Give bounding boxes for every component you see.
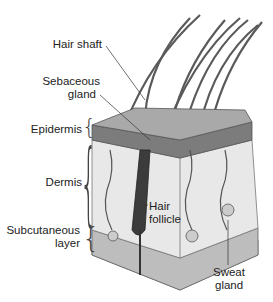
label-sweat-1: Sweat <box>213 266 245 279</box>
label-sweat-2: gland <box>215 279 243 292</box>
label-epidermis: Epidermis <box>10 123 82 136</box>
label-sebaceous-2: gland <box>30 88 96 101</box>
label-subcutaneous-1: Subcutaneous <box>0 224 80 237</box>
label-hair-shaft: Hair shaft <box>30 38 102 51</box>
label-dermis: Dermis <box>10 176 82 189</box>
label-hair-follicle-1: Hair <box>149 200 170 213</box>
label-sebaceous-1: Sebaceous <box>30 75 100 88</box>
dermis-brace: { <box>80 138 97 228</box>
subcutaneous-brace: { <box>82 222 100 255</box>
label-subcutaneous-2: layer <box>0 237 80 250</box>
label-hair-follicle-2: follicle <box>149 213 181 226</box>
